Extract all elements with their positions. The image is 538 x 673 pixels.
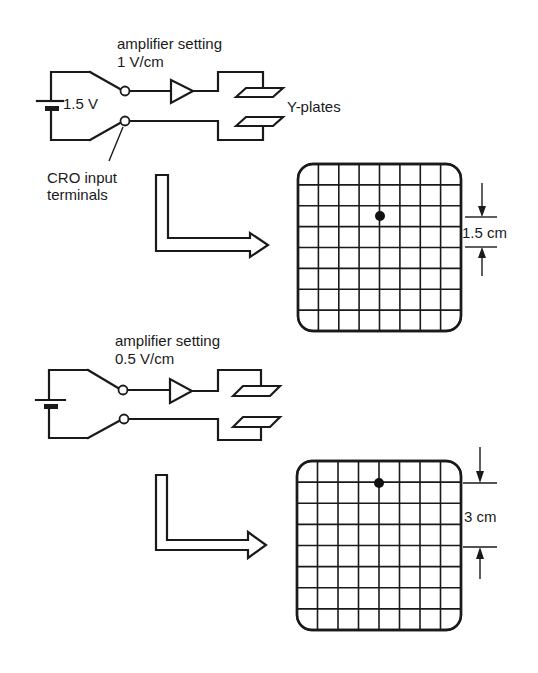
cro-input-label: CRO input	[47, 169, 118, 186]
amplifier-setting-label: amplifier setting	[117, 35, 222, 52]
arrow-down-icon	[478, 206, 486, 217]
amplifier-triangle-icon	[170, 379, 192, 403]
input-terminal-icon	[120, 415, 129, 424]
l-arrow-icon	[156, 175, 268, 257]
arrow-up-icon	[476, 547, 484, 559]
arrow-up-icon	[478, 247, 486, 258]
battery-icon	[36, 370, 88, 438]
y-plate-lower-icon	[236, 117, 283, 126]
panel-half-volt-per-cm: amplifier setting 0.5 V/cm	[36, 332, 497, 630]
l-arrow-icon	[156, 475, 266, 558]
cro-screen	[297, 461, 461, 630]
deflection-label: 3 cm	[464, 508, 497, 525]
panel-1-volt-per-cm: amplifier setting 1 V/cm 1.5 V CRO input…	[37, 35, 507, 331]
input-terminal-icon	[121, 87, 130, 96]
arrow-down-icon	[476, 471, 484, 483]
cro-amplifier-diagram: amplifier setting 1 V/cm 1.5 V CRO input…	[0, 0, 538, 673]
y-plates-label: Y-plates	[287, 98, 341, 115]
cro-screen	[298, 164, 461, 331]
deflection-dimension: 3 cm	[463, 447, 497, 579]
beam-spot	[375, 211, 385, 221]
input-terminal-icon	[119, 386, 128, 395]
amplifier-setting-value: 1 V/cm	[117, 53, 164, 70]
amplifier-setting-label: amplifier setting	[115, 332, 220, 349]
amplifier-triangle-icon	[171, 80, 193, 103]
beam-spot	[374, 478, 384, 488]
y-plate-lower-icon	[233, 417, 280, 427]
deflection-dimension: 1.5 cm	[462, 183, 507, 276]
y-plate-upper-icon	[233, 386, 280, 396]
cro-terminals-label: terminals	[47, 186, 108, 203]
battery-voltage-label: 1.5 V	[63, 95, 98, 112]
deflection-label: 1.5 cm	[462, 224, 507, 241]
amplifier-setting-value: 0.5 V/cm	[115, 350, 174, 367]
y-plate-upper-icon	[236, 88, 283, 97]
input-terminal-icon	[121, 117, 130, 126]
